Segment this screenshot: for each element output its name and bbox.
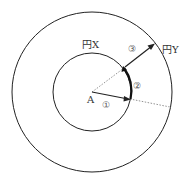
concentric-circles-diagram: 円X 円Y A ① ② ③ <box>0 0 186 184</box>
arc-2 <box>124 68 131 99</box>
label-step-3: ③ <box>128 44 136 54</box>
label-step-2: ② <box>133 81 141 91</box>
dotted-radius-lower <box>130 99 170 107</box>
label-inner-circle: 円X <box>82 39 100 50</box>
label-center-a: A <box>86 94 95 105</box>
label-step-1: ① <box>102 100 110 110</box>
dotted-radius-upper <box>92 68 124 92</box>
label-outer-circle: 円Y <box>162 44 179 55</box>
arrow-1 <box>92 92 128 99</box>
